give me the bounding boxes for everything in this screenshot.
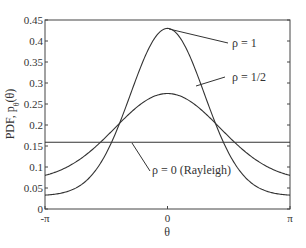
annotation-leader	[132, 143, 150, 171]
y-tick-label: 0.25	[24, 98, 44, 110]
x-tick-label: -π	[40, 212, 50, 224]
x-axis-label: θ	[164, 225, 170, 239]
annotations: ρ = 1ρ = 1/2ρ = 0 (Rayleigh)	[132, 29, 266, 177]
y-axis-label: PDF, pθ(θ)	[3, 89, 21, 140]
annotation-label: ρ = 1	[232, 36, 257, 50]
pdf-chart: 00.050.10.150.20.250.30.350.40.45 -π0π ρ…	[0, 0, 306, 248]
y-tick-label: 0.1	[29, 161, 43, 173]
y-tick-label: 0.2	[29, 119, 43, 131]
annotation-label: ρ = 0 (Rayleigh)	[152, 163, 231, 177]
x-tick-label: π	[287, 212, 293, 224]
y-tick-label: 0.3	[29, 77, 43, 89]
y-tick-label: 0.05	[24, 182, 44, 194]
y-tick-label: 0.45	[24, 14, 44, 26]
y-tick-label: 0.15	[24, 140, 44, 152]
annotation-label: ρ = 1/2	[232, 70, 266, 84]
x-tick-label: 0	[165, 212, 171, 224]
annotation-leader	[169, 29, 228, 43]
y-tick-label: 0.35	[24, 56, 44, 68]
y-tick-label: 0.4	[29, 35, 43, 47]
